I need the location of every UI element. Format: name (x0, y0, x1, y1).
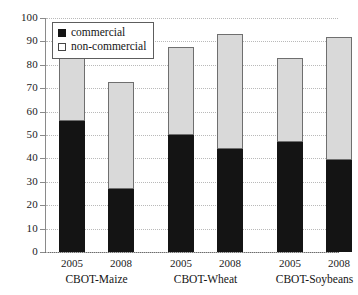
y-tick-mark-60 (40, 112, 45, 113)
x-axis-group-label-2: CBOT-Soybeans (255, 274, 358, 286)
bar-segment-commercial (168, 135, 194, 252)
bar-segment-non-commercial (277, 58, 303, 142)
bar-cbot-wheat-2008 (217, 18, 243, 252)
bar-segment-non-commercial (168, 47, 194, 135)
y-tick-mark-10 (40, 229, 45, 230)
bar-segment-commercial (326, 160, 352, 252)
bar-segment-commercial (108, 189, 134, 252)
x-axis-group-label-0: CBOT-Maize (37, 274, 157, 286)
legend-swatch-commercial-icon (58, 29, 66, 37)
bar-cbot-soybeans-2008 (326, 18, 352, 252)
y-tick-mark-0 (40, 252, 45, 253)
y-tick-label-80: 80 (6, 59, 38, 70)
y-tick-label-10: 10 (6, 223, 38, 234)
x-axis-year-label-3: 2008 (200, 258, 260, 269)
chart-legend: commercial non-commercial (52, 22, 154, 59)
y-tick-mark-70 (40, 88, 45, 89)
legend-item-non-commercial: non-commercial (58, 40, 146, 54)
bar-segment-commercial (59, 121, 85, 252)
y-tick-mark-80 (40, 65, 45, 66)
x-axis-group-label-1: CBOT-Wheat (146, 274, 266, 286)
y-tick-label-20: 20 (6, 199, 38, 210)
bar-segment-commercial (217, 149, 243, 252)
bar-segment-non-commercial (326, 37, 352, 160)
y-tick-label-70: 70 (6, 82, 38, 93)
y-tick-mark-50 (40, 135, 45, 136)
bar-segment-non-commercial (217, 34, 243, 149)
y-tick-label-90: 90 (6, 35, 38, 46)
y-tick-mark-90 (40, 41, 45, 42)
x-axis-year-label-1: 2008 (91, 258, 151, 269)
y-tick-mark-20 (40, 205, 45, 206)
y-tick-label-60: 60 (6, 106, 38, 117)
bar-segment-non-commercial (108, 82, 134, 188)
legend-swatch-non-commercial-icon (58, 43, 66, 51)
y-tick-label-50: 50 (6, 129, 38, 140)
y-tick-mark-30 (40, 182, 45, 183)
y-tick-label-40: 40 (6, 152, 38, 163)
y-tick-mark-40 (40, 158, 45, 159)
y-tick-label-0: 0 (6, 246, 38, 257)
bar-cbot-wheat-2005 (168, 18, 194, 252)
gridline-0 (46, 252, 338, 253)
legend-label-non-commercial: non-commercial (71, 41, 146, 53)
bar-segment-non-commercial (59, 58, 85, 121)
y-tick-label-30: 30 (6, 176, 38, 187)
bar-segment-commercial (277, 142, 303, 252)
legend-label-commercial: commercial (71, 27, 125, 39)
x-axis-year-label-5: 2008 (309, 258, 358, 269)
y-tick-label-100: 100 (6, 12, 38, 23)
bar-cbot-soybeans-2005 (277, 18, 303, 252)
legend-item-commercial: commercial (58, 26, 146, 40)
y-tick-mark-100 (40, 18, 45, 19)
